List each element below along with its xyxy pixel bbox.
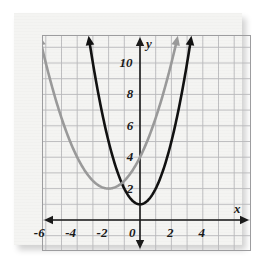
y-axis-tick-label-4: 4: [127, 150, 134, 163]
y-axis-tick-label-6: 6: [127, 119, 134, 132]
x-axis-tick-label-4: 4: [198, 226, 205, 239]
y-axis-tick-label-8: 8: [127, 87, 134, 100]
x-axis-tick-label-neg6: -6: [34, 226, 45, 239]
graph-figure: -6-4-2024246810xy: [0, 0, 265, 269]
y-axis-tick-label-10: 10: [120, 56, 133, 69]
y-axis-name-label: y: [146, 37, 152, 50]
y-axis-tick-label-2: 2: [127, 182, 134, 195]
x-axis-tick-label-neg2: -2: [97, 226, 108, 239]
x-axis-tick-label-2: 2: [167, 226, 174, 239]
x-axis-name-label: x: [234, 202, 241, 215]
coordinate-plane: -6-4-2024246810xy: [42, 35, 251, 251]
x-axis-origin-label: 0: [129, 226, 136, 239]
x-axis-tick-label-neg4: -4: [65, 226, 76, 239]
coordinate-plane-svg: [42, 35, 251, 251]
graph-paper-sheet: -6-4-2024246810xy: [14, 13, 242, 245]
